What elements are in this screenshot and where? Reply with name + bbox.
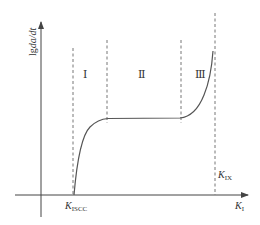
crack-growth-diagram: lgda/dt Ⅰ Ⅱ Ⅲ KISCC KIX KI: [0, 0, 260, 225]
x-axis-label: KI: [234, 200, 245, 213]
k-iscc-label: KISCC: [64, 200, 88, 213]
y-axis-label-expr: da/dt: [27, 27, 38, 48]
region-label-1: Ⅰ: [83, 68, 87, 80]
y-axis-label-main: lg: [27, 48, 38, 56]
region-label-3: Ⅲ: [195, 68, 206, 80]
k-ix-sub: IX: [225, 174, 232, 182]
k-iscc-sub: ISCC: [72, 205, 88, 213]
k-ix-label: KIX: [217, 169, 232, 182]
region-label-2: Ⅱ: [138, 68, 145, 80]
x-axis-label-sub: I: [242, 205, 245, 213]
y-axis-label: lgda/dt: [27, 27, 38, 56]
